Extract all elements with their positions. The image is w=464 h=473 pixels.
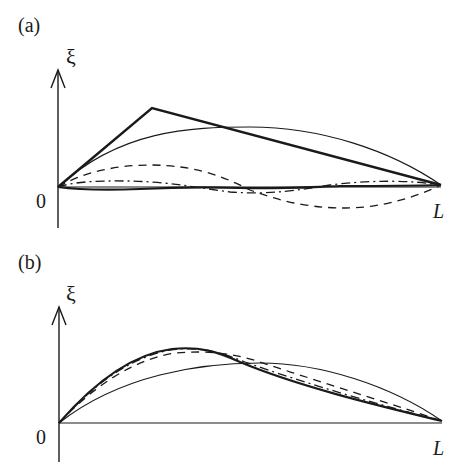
- figure: (a) ξ 0 L (b) ξ 0 L: [0, 0, 464, 473]
- panel-a-curve-fundamental: [58, 127, 441, 187]
- panel-a-y-axis-label: ξ: [66, 44, 76, 69]
- panel-a-x-end-label: L: [432, 200, 444, 222]
- panel-b-label: (b): [18, 251, 41, 274]
- panel-b-curve-three-modes: [59, 349, 442, 423]
- panel-a-curve-triangle: [58, 108, 441, 187]
- panel-b-y-axis-label: ξ: [66, 281, 76, 306]
- panel-b-x-end-label: L: [432, 437, 444, 459]
- panel-a-origin-label: 0: [36, 190, 46, 212]
- panel-a-label: (a): [18, 14, 40, 37]
- panel-b-origin-label: 0: [36, 426, 46, 448]
- panel-b: (b) ξ 0 L: [18, 251, 444, 462]
- panel-a: (a) ξ 0 L: [18, 14, 444, 228]
